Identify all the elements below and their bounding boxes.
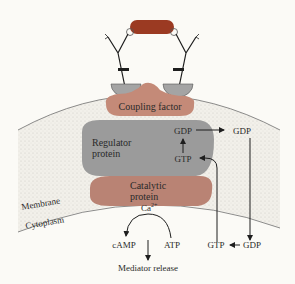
atp-label: ATP bbox=[164, 240, 180, 250]
coupling-factor-label: Coupling factor bbox=[118, 101, 182, 112]
camp-label: cAMP bbox=[112, 240, 136, 250]
ige-receptor-right bbox=[173, 34, 199, 92]
gdp-inner-label: GDP bbox=[174, 126, 192, 136]
antigen-bridge bbox=[127, 20, 178, 36]
gdp-bottom-label: GDP bbox=[243, 240, 261, 250]
catalytic-label-2: protein bbox=[130, 191, 158, 202]
gdp-outer-label: GDP bbox=[233, 126, 251, 136]
diagram-canvas: Coupling factor Regulator protein Cataly… bbox=[0, 0, 295, 284]
mediator-release-label: Mediator release bbox=[118, 263, 178, 273]
regulator-label-1: Regulator bbox=[92, 137, 132, 148]
gtp-bottom-label: GTP bbox=[207, 240, 224, 250]
atp-to-camp-arrow bbox=[126, 214, 171, 238]
ige-receptor-left bbox=[105, 34, 129, 92]
catalytic-label-1: Catalytic bbox=[130, 180, 167, 191]
regulator-label-2: protein bbox=[92, 148, 120, 159]
gtp-inner-label: GTP bbox=[174, 154, 191, 164]
calcium-label: Ca2+ bbox=[141, 202, 158, 213]
